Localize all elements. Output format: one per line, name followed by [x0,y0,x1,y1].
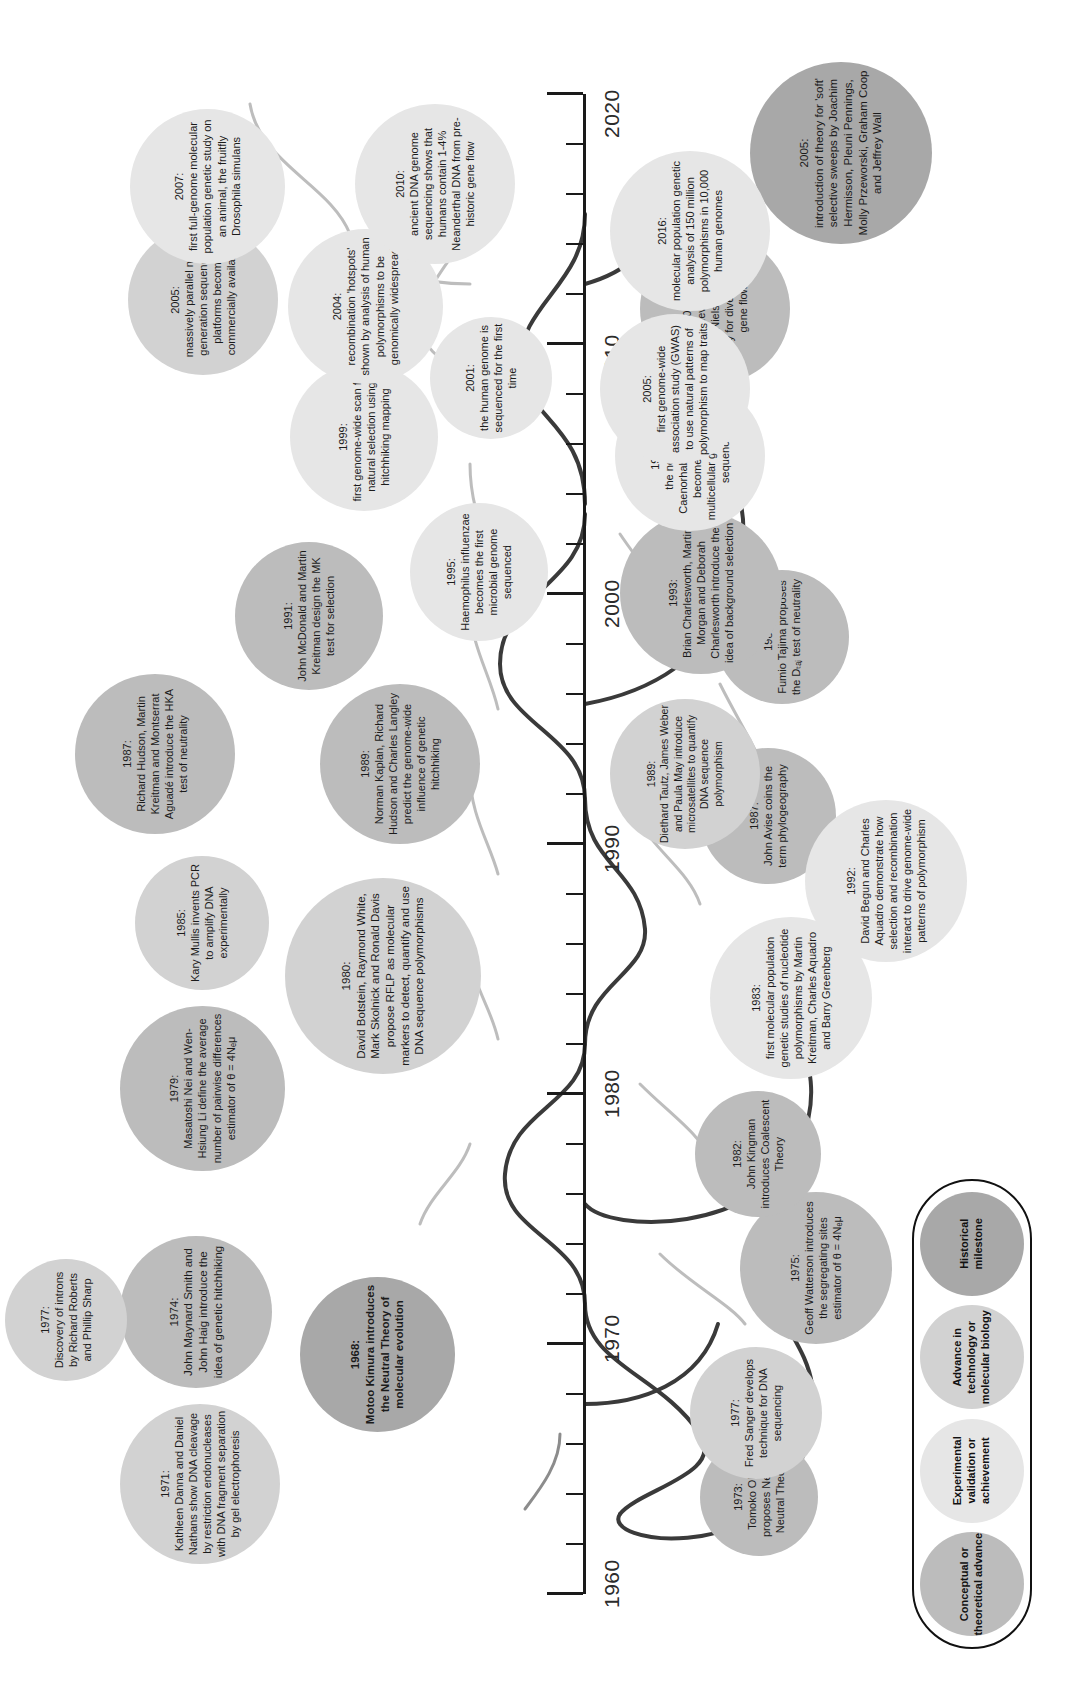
axis-minor-tick [566,243,583,245]
axis-minor-tick [566,943,583,945]
event-text-1983: first molecular population genetic studi… [764,929,832,1068]
event-bubble-1971[interactable]: 1971:Kathleen Danna and Daniel Nathans s… [120,1404,280,1564]
event-year-1977-sanger: 1977: [729,1399,741,1427]
event-bubble-2005-sweeps[interactable]: 2005:introduction of theory for 'soft' s… [750,62,932,244]
event-text-1980: David Botstein, Raymond White, Mark Skol… [355,886,426,1066]
legend-label-conceptual: Conceptual or theoretical advance [958,1532,986,1636]
axis-minor-tick [566,143,583,145]
event-text-1971: Kathleen Danna and Daniel Nathans show D… [173,1411,241,1557]
event-year-1985: 1985: [175,909,187,937]
event-bubble-1989-microsat[interactable]: 1989:Diethard Tautz, James Weber and Pau… [610,699,760,849]
event-bubble-2016[interactable]: 2016:molecular population genetic analys… [610,151,770,311]
axis-minor-tick [566,1293,583,1295]
event-text-2016: molecular population genetic analysis of… [670,161,724,301]
event-year-1989-microsat: 1989: [645,761,657,787]
year-label-1980: 1980 [600,1069,624,1118]
event-bubble-1982[interactable]: 1982:John Kingman introduces Coalescent … [695,1091,821,1217]
axis-minor-tick [566,793,583,795]
event-year-1992: 1992: [845,867,857,895]
event-bubble-1974[interactable]: 1974:John Maynard Smith and John Haig in… [120,1236,272,1388]
timeline-figure: 1960 1970 1980 1990 2000 2010 2020 1968:… [0,0,1083,1704]
axis-major-tick [547,842,583,845]
axis-minor-tick [566,893,583,895]
year-label-1970: 1970 [600,1314,624,1363]
axis-main-line [583,94,586,1594]
axis-minor-tick [566,1493,583,1495]
legend-item-technology[interactable]: Advance in technology or molecular biolo… [920,1305,1024,1409]
event-year-1982: 1982: [731,1140,743,1168]
event-bubble-1989-kaplan[interactable]: 1989:Norman Kaplan, Richard Hudson and C… [320,684,480,844]
year-label-1960: 1960 [600,1559,624,1608]
axis-minor-tick [566,1043,583,1045]
axis-minor-tick [566,643,583,645]
event-text-2004: recombination 'hotspots' shown by analys… [345,237,399,375]
event-text-1991: John McDonald and Martin Kreitman design… [296,550,336,681]
event-bubble-1995[interactable]: 1995:Haemophilus influenzae becomes the … [410,503,548,641]
event-year-2005-sweeps: 2005: [798,139,810,168]
axis-minor-tick [566,693,583,695]
legend-label-experimental: Experimental validation or achievement [951,1419,992,1523]
axis-minor-tick [566,1543,583,1545]
event-year-1993: 1993: [667,579,679,607]
axis-major-tick [547,592,583,595]
event-year-1975: 1975: [789,1254,801,1282]
event-text-1979: Masatoshi Nei and Wen-Hsiung Li define t… [182,1014,236,1164]
event-year-1995: 1995: [445,558,457,586]
axis-minor-tick [566,543,583,545]
event-year-2010: 2010: [394,170,406,198]
event-year-1974: 1974: [168,1298,180,1327]
axis-minor-tick [566,1193,583,1195]
event-bubble-1980[interactable]: 1980:David Botstein, Raymond White, Mark… [285,878,481,1074]
event-text-1987-hka: Richard Hudson, Martin Kreitman and Mont… [135,689,189,819]
event-year-2007: 2007: [173,173,185,201]
event-text-1989-kaplan: Norman Kaplan, Richard Hudson and Charle… [373,693,441,835]
event-text-1975: Geoff Watterson introduces the segregati… [803,1201,843,1334]
legend-item-historical[interactable]: Historical milestone [920,1192,1024,1296]
event-bubble-2005-gwas[interactable]: 2005:first genome-wide association study… [600,314,750,464]
event-year-1987-hka: 1987: [121,740,133,768]
axis-minor-tick [566,743,583,745]
axis-minor-tick [566,993,583,995]
event-year-1971: 1971: [159,1470,171,1498]
axis-major-tick [547,342,583,345]
event-bubble-1987-hka[interactable]: 1987:Richard Hudson, Martin Kreitman and… [75,674,235,834]
event-text-1992: David Begun and Charles Aquadro demonstr… [859,809,927,953]
event-bubble-1968[interactable]: 1968:Motoo Kimura introduces the Neutral… [300,1277,455,1432]
event-text-1982: John Kingman introduces Coalescent Theor… [745,1100,785,1209]
axis-major-tick [547,1092,583,1095]
legend-label-technology: Advance in technology or molecular biolo… [951,1305,992,1409]
event-year-2004: 2004: [331,293,343,321]
event-text-1993: Brian Charlesworth, Martin Morgan and De… [681,523,735,663]
event-bubble-1992[interactable]: 1992:David Begun and Charles Aquadro dem… [805,800,967,962]
event-year-2005-gwas: 2005: [641,375,653,403]
axis-minor-tick [566,1143,583,1145]
event-year-1973: 1973: [732,1483,744,1511]
event-bubble-1991[interactable]: 1991:John McDonald and Martin Kreitman d… [235,542,383,690]
event-bubble-2001-human[interactable]: 2001:the human genome is sequenced for t… [430,317,552,439]
axis-minor-tick [566,393,583,395]
legend-item-conceptual[interactable]: Conceptual or theoretical advance [920,1532,1024,1636]
event-text-1989-microsat: Diethard Tautz, James Weber and Paula Ma… [658,705,724,843]
axis-minor-tick [566,1393,583,1395]
legend-label-historical: Historical milestone [958,1192,986,1296]
event-year-1989-kaplan: 1989: [359,750,371,778]
event-bubble-2010[interactable]: 2010:ancient DNA genome sequencing shows… [355,104,515,264]
event-text-2010: ancient DNA genome sequencing shows that… [408,117,476,250]
legend-box: Conceptual or theoretical advance Experi… [912,1179,1032,1649]
legend-item-experimental[interactable]: Experimental validation or achievement [920,1419,1024,1523]
event-text-1985: Kary Mullis invents PCR to amplify DNA e… [189,864,229,982]
event-year-1980: 1980: [340,962,352,991]
event-year-2016: 2016: [656,217,668,245]
event-year-2001-human: 2001: [464,364,476,392]
event-bubble-1977-sanger[interactable]: 1977:Fred Sanger develops technique for … [690,1347,822,1479]
event-bubble-1993[interactable]: 1993:Brian Charlesworth, Martin Morgan a… [620,512,782,674]
event-text-1987-phylogeo: John Avise coins the term phylogeography [762,764,788,867]
axis-minor-tick [566,443,583,445]
event-year-1977-introns: 1977: [39,1306,51,1334]
event-bubble-1979[interactable]: 1979:Masatoshi Nei and Wen-Hsiung Li def… [120,1006,285,1171]
event-bubble-1977-introns[interactable]: 1977:Discovery of introns by Richard Rob… [5,1259,127,1381]
event-bubble-1999[interactable]: 1999:first genome-wide scan for natural … [290,363,438,511]
event-bubble-2007[interactable]: 2007:first full-genome molecular populat… [130,109,285,264]
event-text-1968: Motoo Kimura introduces the Neutral Theo… [364,1285,405,1424]
event-bubble-1985[interactable]: 1985:Kary Mullis invents PCR to amplify … [135,856,269,990]
